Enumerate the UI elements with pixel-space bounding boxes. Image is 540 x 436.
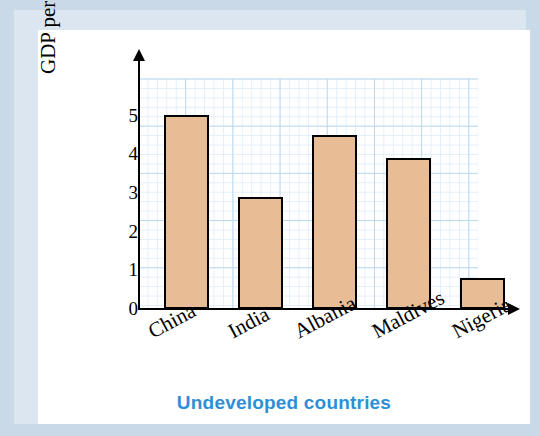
bar-china — [164, 115, 209, 309]
y-tick-label: 0 — [112, 298, 138, 320]
bar-albania — [312, 135, 357, 309]
y-axis-line — [138, 58, 140, 310]
y-axis-arrow-icon — [133, 49, 145, 61]
bar-maldives — [386, 158, 431, 309]
y-axis-title: GDP per person (×$1000) — [36, 0, 61, 74]
chart-card: GDP per person (×$1000) 0 1 2 3 4 5 — [38, 30, 530, 424]
image-frame: GDP per person (×$1000) 0 1 2 3 4 5 — [14, 10, 526, 424]
y-tick-label: 4 — [112, 143, 138, 165]
y-tick-label: 3 — [112, 182, 138, 204]
plot-area: 0 1 2 3 4 5 — [138, 78, 478, 310]
y-tick-label: 1 — [112, 259, 138, 281]
y-tick-label: 5 — [112, 105, 138, 127]
chart-caption: Undeveloped countries — [38, 392, 530, 414]
y-tick-label: 2 — [112, 221, 138, 243]
screenshot-root: GDP per person (×$1000) 0 1 2 3 4 5 — [0, 0, 540, 436]
bar-india — [238, 197, 283, 309]
